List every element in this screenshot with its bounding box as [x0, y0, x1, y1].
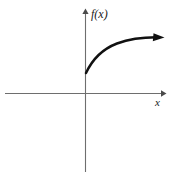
x-axis-label: x [155, 97, 160, 108]
y-axis-label: f(x) [91, 8, 108, 20]
curve-arrowhead [153, 33, 165, 41]
y-axis-arrowhead [82, 9, 88, 15]
math-figure: f(x) x [0, 0, 170, 172]
function-curve [86, 37, 157, 73]
axes-group [5, 9, 167, 173]
x-axis-arrowhead [161, 90, 167, 97]
axes-and-curve-canvas [0, 0, 170, 172]
function-curve-group [86, 33, 165, 73]
